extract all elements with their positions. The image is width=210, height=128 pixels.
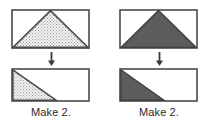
caption-right: Make 2.: [114, 105, 204, 119]
rectangle-with-half-triangle-stippled: [11, 68, 90, 102]
rectangle-with-centered-triangle-dark: [119, 9, 198, 49]
arrow-slot-right: [114, 51, 204, 66]
arrow-down-icon: [48, 52, 55, 66]
caption-left: Make 2.: [6, 105, 96, 119]
bottom-shape-left: [11, 68, 90, 102]
bottom-shape-right: [119, 68, 198, 102]
arrow-down-icon: [156, 52, 163, 66]
unit-group-right: Make 2.: [114, 0, 204, 128]
unit-group-left: Make 2.: [6, 0, 96, 128]
quilt-unit-diagram: Make 2. Make 2.: [0, 0, 210, 128]
top-shape-right: [119, 9, 198, 49]
rectangle-with-centered-triangle-stippled: [11, 9, 90, 49]
rectangle-with-half-triangle-dark: [119, 68, 198, 102]
top-shape-left: [11, 9, 90, 49]
arrow-slot-left: [6, 51, 96, 66]
